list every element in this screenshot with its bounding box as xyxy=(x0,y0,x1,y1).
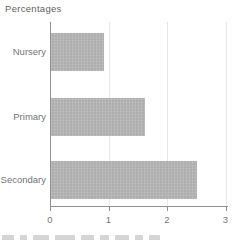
x-tick-0 xyxy=(50,207,51,211)
category-label-secondary: Secondary xyxy=(0,175,46,185)
bar-nursery xyxy=(51,33,104,71)
category-label-primary: Primary xyxy=(0,112,46,122)
x-tick-label-0: 0 xyxy=(43,214,57,225)
x-tick-label-2: 2 xyxy=(160,214,174,225)
plot-area: NurseryPrimarySecondary0123 xyxy=(0,0,233,240)
x-tick-2 xyxy=(167,207,168,211)
gridline-x3 xyxy=(226,22,227,206)
x-tick-label-1: 1 xyxy=(102,214,116,225)
bar-secondary xyxy=(51,161,197,199)
x-tick-label-3: 3 xyxy=(219,214,233,225)
category-label-nursery: Nursery xyxy=(0,47,46,57)
x-tick-1 xyxy=(109,207,110,211)
bar-chart-panel: Percentages NurseryPrimarySecondary0123 xyxy=(0,0,233,240)
bar-primary xyxy=(51,98,145,136)
x-axis-line xyxy=(50,206,228,207)
cropped-caption-text xyxy=(2,235,172,240)
x-tick-3 xyxy=(226,207,227,211)
